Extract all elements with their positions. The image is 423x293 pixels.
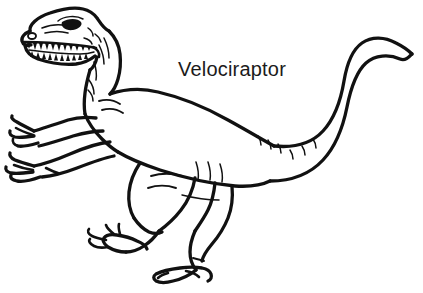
velociraptor-line-drawing: Velociraptor — [0, 0, 423, 293]
near-foot-claw-tip — [119, 224, 120, 234]
species-label: Velociraptor — [178, 58, 286, 80]
illustration-canvas: Velociraptor — [0, 0, 423, 293]
